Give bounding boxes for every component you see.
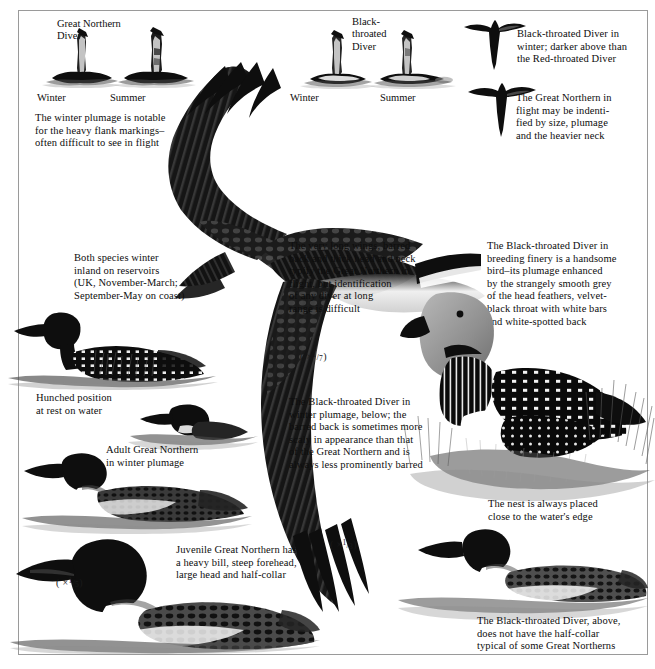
scale-prefix: ( × xyxy=(56,577,68,588)
scale-bt-winter-swim: ( ×1/3) xyxy=(330,538,357,552)
scale-flight-bird: ( ×1/7) xyxy=(300,350,327,364)
gn-summer-label: Summer xyxy=(110,92,146,104)
gn-winter-label: Winter xyxy=(37,92,66,104)
scale-numerator: 1 xyxy=(68,576,72,585)
gn-winter-swimming-figure xyxy=(22,444,252,534)
scale-suffix: ) xyxy=(323,351,327,362)
bt-breeding-nest-figure xyxy=(400,288,655,513)
scale-suffix: ) xyxy=(353,539,357,550)
caption-bt-no-half-collar: The Black-throated Diver, above, does no… xyxy=(477,615,655,653)
caption-both-species-winter: Both species winter inland on reservoirs… xyxy=(74,252,264,302)
caption-gn-in-flight: The Great Northern in flight may be inde… xyxy=(516,92,655,142)
scale-numerator: 1 xyxy=(342,538,346,547)
scale-prefix: ( × xyxy=(300,351,312,362)
gn-summer-swimming-figure xyxy=(8,300,218,390)
scale-numerator: 1 xyxy=(312,350,316,359)
illustration-plate: Winter Great Northern Diver Summer Black… xyxy=(0,0,655,669)
scale-suffix: ) xyxy=(79,577,83,588)
gn-hunched-figure xyxy=(128,392,258,452)
scale-prefix: ( × xyxy=(330,539,342,550)
caption-bt-winter-flight: Black-throated Diver in winter; darker a… xyxy=(517,28,655,66)
scale-juvenile-gn: ( ×1/5) xyxy=(56,576,83,590)
bt-winter-swimming-figure xyxy=(398,510,648,620)
